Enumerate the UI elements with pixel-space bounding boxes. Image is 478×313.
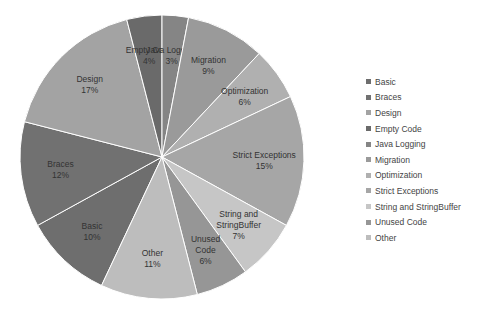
legend-swatch — [366, 110, 371, 115]
legend-label: Optimization — [375, 170, 422, 180]
legend-item: Empty Code — [366, 121, 461, 137]
legend-item: Unused Code — [366, 214, 461, 230]
legend-item: Basic — [366, 74, 461, 90]
slice-label: Basic10% — [82, 221, 104, 242]
legend-label: Unused Code — [375, 217, 427, 227]
legend-label: Basic — [375, 77, 396, 87]
legend-item: Migration — [366, 152, 461, 168]
legend-swatch — [366, 126, 371, 131]
legend-label: Design — [375, 108, 401, 118]
slice-label: Other11% — [142, 248, 163, 269]
legend-swatch — [366, 142, 371, 147]
legend-item: Other — [366, 230, 461, 246]
legend-item: String and StringBuffer — [366, 199, 461, 215]
legend-item: Java Logging — [366, 136, 461, 152]
legend-label: String and StringBuffer — [375, 202, 461, 212]
legend-label: Braces — [375, 92, 401, 102]
legend-item: Strict Exceptions — [366, 183, 461, 199]
legend-swatch — [366, 204, 371, 209]
legend-item: Design — [366, 105, 461, 121]
legend-label: Java Logging — [375, 139, 426, 149]
legend-label: Empty Code — [375, 124, 422, 134]
legend-label: Other — [375, 233, 396, 243]
legend-item: Optimization — [366, 168, 461, 184]
legend-swatch — [366, 157, 371, 162]
legend-swatch — [366, 220, 371, 225]
legend-swatch — [366, 188, 371, 193]
legend-swatch — [366, 173, 371, 178]
legend-swatch — [366, 235, 371, 240]
legend-item: Braces — [366, 90, 461, 106]
chart-legend: BasicBracesDesignEmpty CodeJava LoggingM… — [366, 74, 461, 246]
legend-swatch — [366, 79, 371, 84]
legend-label: Strict Exceptions — [375, 186, 438, 196]
legend-swatch — [366, 95, 371, 100]
legend-label: Migration — [375, 155, 410, 165]
